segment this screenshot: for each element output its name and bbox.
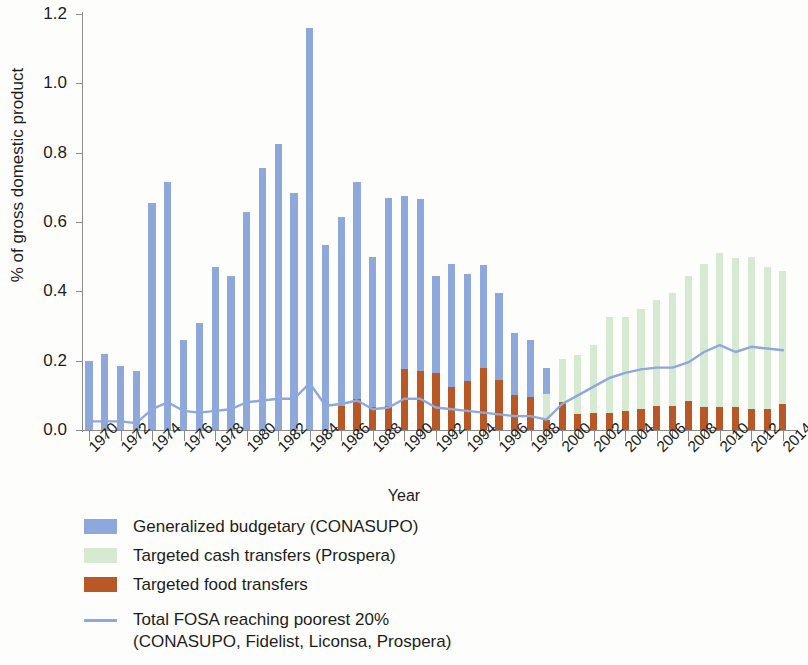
plot-area: 0.00.20.40.60.81.01.2 [83,14,795,430]
y-tick: 0.8 [76,153,83,154]
legend-swatch-green-icon [84,548,117,563]
y-tick-label: 0.2 [43,351,67,371]
y-tick: 0.6 [76,222,83,223]
chart-legend: Generalized budgetary (CONASUPO) Targete… [84,516,684,660]
y-axis-title: % of gross domestic product [8,0,38,400]
y-tick: 0.0 [76,430,83,431]
legend-swatch-blue-icon [84,519,117,534]
y-tick: 0.2 [76,361,83,362]
legend-item-total-fosa: Total FOSA reaching poorest 20% (CONASUP… [84,609,684,653]
chart-figure: % of gross domestic product 0.00.20.40.6… [0,0,808,665]
y-tick-label: 0.8 [43,143,67,163]
legend-item-targeted-food-transfers: Targeted food transfers [84,574,684,596]
total-fosa-line [89,345,783,423]
legend-label-line1: Total FOSA reaching poorest 20% [133,610,389,629]
y-tick: 1.2 [76,14,83,15]
legend-label: Targeted cash transfers (Prospera) [133,545,396,567]
legend-label: Generalized budgetary (CONASUPO) [133,516,418,538]
y-tick-label: 1.0 [43,73,67,93]
legend-swatch-brown-icon [84,577,117,592]
y-tick-label: 1.2 [43,4,67,24]
legend-label: Targeted food transfers [133,574,308,596]
line-layer [83,14,795,430]
x-axis-title: Year [0,487,808,505]
legend-item-generalized-budgetary: Generalized budgetary (CONASUPO) [84,516,684,538]
y-tick: 1.0 [76,83,83,84]
legend-label-line2: (CONASUPO, Fidelist, Liconsa, Prospera) [133,632,451,651]
legend-item-targeted-cash-transfers: Targeted cash transfers (Prospera) [84,545,684,567]
y-tick-label: 0.0 [43,420,67,440]
y-tick-label: 0.4 [43,281,67,301]
y-tick-label: 0.6 [43,212,67,232]
y-tick: 0.4 [76,291,83,292]
legend-swatch-line-icon [84,612,117,627]
